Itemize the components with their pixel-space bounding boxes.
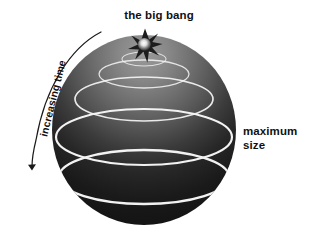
maximum-size-label: maximum size xyxy=(243,124,297,152)
starburst-core xyxy=(138,38,151,51)
big-bang-label: the big bang xyxy=(0,8,318,22)
expanding-universe-sphere xyxy=(52,35,236,225)
sphere-surface xyxy=(52,35,236,225)
